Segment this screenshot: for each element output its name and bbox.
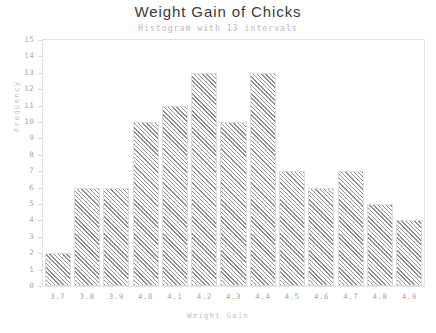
y-axis-tick-label: 8 (29, 150, 34, 159)
y-axis-tick-label: 6 (29, 183, 34, 192)
histogram-bar (74, 188, 100, 286)
y-axis-tick-label: 3 (29, 232, 34, 241)
x-axis-tick-label: 4.0 (131, 292, 160, 301)
x-axis-tick-label: 4.7 (336, 292, 365, 301)
y-axis-tick-mark (38, 188, 42, 189)
x-axis-tick-label: 4.1 (160, 292, 189, 301)
x-axis-tick-label: 3.8 (72, 292, 101, 301)
chart-title: Weight Gain of Chicks (0, 3, 436, 20)
bars-layer (43, 40, 424, 286)
histogram-bar (367, 204, 393, 286)
histogram-bar (45, 253, 71, 286)
y-axis-tick-label: 10 (24, 117, 34, 126)
y-axis-tick-label: 12 (24, 84, 34, 93)
y-axis-tick-mark (38, 138, 42, 139)
histogram-bar (308, 188, 334, 286)
y-axis-tick-mark (38, 286, 42, 287)
y-axis-tick-mark (38, 270, 42, 271)
x-axis-tick-label: 4.9 (395, 292, 424, 301)
x-axis-tick-label: 4.4 (248, 292, 277, 301)
x-axis-tick-label: 4.8 (365, 292, 394, 301)
x-axis-title: Weight Gain (0, 311, 436, 320)
x-axis-tick-label: 4.2 (190, 292, 219, 301)
histogram-bar (396, 220, 422, 286)
histogram-bar (133, 122, 159, 286)
y-axis-tick-label: 14 (24, 51, 34, 60)
y-axis: 0123456789101112131415 (0, 39, 42, 288)
y-axis-tick-mark (38, 253, 42, 254)
chart-subtitle: Histogram with 13 intervals (0, 24, 436, 33)
x-axis-tick-label: 4.6 (307, 292, 336, 301)
y-axis-title: Frequency (12, 81, 21, 132)
y-axis-tick-label: 13 (24, 68, 34, 77)
histogram-chart: Weight Gain of Chicks Histogram with 13 … (0, 0, 436, 333)
y-axis-tick-label: 7 (29, 166, 34, 175)
y-axis-tick-label: 1 (29, 265, 34, 274)
y-axis-tick-mark (38, 220, 42, 221)
y-axis-tick-mark (38, 171, 42, 172)
y-axis-tick-mark (38, 122, 42, 123)
x-axis: 3.73.83.94.04.14.24.34.44.54.64.74.84.9 (43, 288, 424, 308)
y-axis-tick-mark (38, 155, 42, 156)
y-axis-tick-label: 0 (29, 281, 34, 290)
histogram-bar (279, 171, 305, 286)
y-axis-tick-mark (38, 40, 42, 41)
y-axis-tick-mark (38, 89, 42, 90)
y-axis-tick-mark (38, 204, 42, 205)
y-axis-tick-label: 11 (24, 101, 34, 110)
y-axis-tick-mark (38, 73, 42, 74)
x-axis-tick-label: 3.7 (43, 292, 72, 301)
histogram-bar (162, 106, 188, 286)
x-axis-tick-label: 4.3 (219, 292, 248, 301)
y-axis-tick-label: 9 (29, 133, 34, 142)
y-axis-tick-mark (38, 56, 42, 57)
y-axis-tick-label: 4 (29, 215, 34, 224)
histogram-bar (338, 171, 364, 286)
y-axis-tick-mark (38, 106, 42, 107)
histogram-bar (191, 73, 217, 286)
x-axis-tick-label: 3.9 (102, 292, 131, 301)
histogram-bar (103, 188, 129, 286)
y-axis-tick-label: 2 (29, 248, 34, 257)
y-axis-tick-mark (38, 237, 42, 238)
histogram-bar (220, 122, 246, 286)
y-axis-tick-label: 15 (24, 35, 34, 44)
histogram-bar (250, 73, 276, 286)
y-axis-tick-label: 5 (29, 199, 34, 208)
x-axis-tick-label: 4.5 (277, 292, 306, 301)
